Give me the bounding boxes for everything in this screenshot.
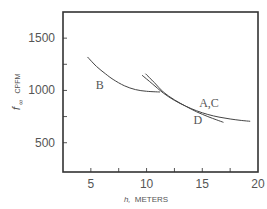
y-axis-variable: f [10, 106, 22, 110]
tick-labels: 510152050010001500 [28, 31, 265, 191]
series-label-d: D [193, 113, 202, 127]
series-label-a-c: A,C [199, 96, 219, 110]
x-axis-unit: METERS [135, 195, 168, 204]
x-tick-label: 5 [88, 177, 95, 191]
y-tick-label: 1000 [28, 83, 55, 97]
x-axis-variable: h, [124, 195, 131, 204]
y-tick-label: 500 [35, 136, 55, 150]
x-axis-label: h, METERS [124, 195, 168, 204]
series-label-b: B [96, 78, 104, 92]
x-tick-label: 15 [196, 177, 210, 191]
x-tick-label: 10 [140, 177, 154, 191]
plot-frame [63, 12, 258, 172]
y-axis-unit: CPFM [14, 73, 21, 93]
svg-text:f ∞ CPFM: f ∞ CPFM [10, 73, 25, 110]
y-tick-label: 1500 [28, 31, 55, 45]
chart: 510152050010001500 BA,CD h, METERS f ∞ C… [0, 0, 267, 209]
series-layer [88, 57, 251, 122]
x-tick-label: 20 [251, 177, 265, 191]
y-axis-label: f ∞ CPFM [10, 73, 25, 110]
y-axis-subscript: ∞ [17, 100, 24, 105]
